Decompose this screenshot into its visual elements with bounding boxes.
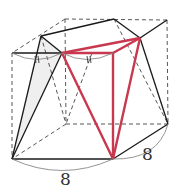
highlight-edges: [62, 38, 140, 159]
geometry-diagram: 8 8: [0, 0, 171, 191]
right-edge-label: 8: [142, 144, 153, 164]
bottom-edge-label: 8: [60, 169, 71, 189]
